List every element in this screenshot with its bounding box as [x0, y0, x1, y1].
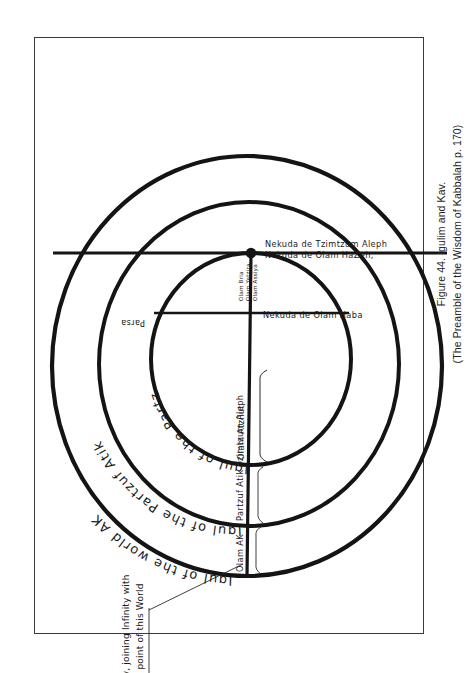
kav-note-line-2: the point of this World: [135, 583, 145, 673]
label-olam-atzilut: Olam Atzilut: [236, 404, 246, 459]
caption-line-1: Figure 44. Igulim and Kav.: [433, 114, 449, 374]
label-igul-partzuf-atik: Igul of the Partzuf Atik: [89, 437, 242, 538]
caption-line-2: (The Preamble of the Wisdom of Kabbalah …: [449, 114, 465, 374]
igul-curved-labels: Igul of the world AK Igul of the Partzuf…: [17, 389, 249, 640]
label-olam-ak: Olam AK: [235, 533, 245, 571]
diagram-area: Kav, joining Infinity with the point of …: [29, 36, 429, 636]
olam-atzilut-brace: [260, 370, 267, 462]
label-olam-bria: Olam Bria: [238, 271, 244, 301]
label-nekuda-de-olam-hazeh: Nekuda de Olam HaZeh,: [265, 250, 374, 260]
partzuf-atik-brace: [258, 467, 263, 523]
igulim-kav-diagram: Kav, joining Infinity with the point of …: [29, 36, 429, 636]
label-nekuda-de-olam-haba: Nekuda de Olam Haba: [263, 310, 363, 320]
ring-names: Olam AK Partzuf Atik Tzimtzum Aleph Olam…: [235, 394, 246, 571]
kav-note-line-1: Kav, joining Infinity with: [121, 574, 131, 673]
figure-caption: Figure 44. Igulim and Kav. (The Preamble…: [433, 114, 468, 374]
figure-rotation-wrapper: Kav, joining Infinity with the point of …: [29, 36, 429, 636]
figure-frame: Kav, joining Infinity with the point of …: [34, 37, 424, 634]
label-olam-assiya: Olam Assiya: [252, 264, 259, 301]
label-parsa: Parsa: [121, 318, 145, 328]
olam-ak-brace: [256, 527, 261, 574]
label-nekuda-de-tzimtzum-aleph: Nekuda de Tzimtzum Aleph: [265, 239, 387, 249]
label-olam-yetzira: Olam Yetzira: [245, 263, 251, 301]
label-igul-partzuf-arich-anpin: Igul of the Partzuf Arich Anpin: [17, 389, 249, 640]
nekuda-center-point: [246, 247, 256, 257]
